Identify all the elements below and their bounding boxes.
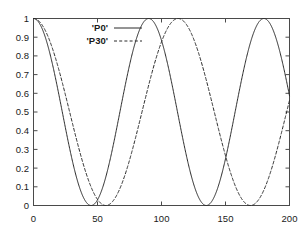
chart-container: 00.10.20.30.40.50.60.70.80.91 0501001502… [0,0,302,243]
y-tick-label: 0.3 [16,144,29,155]
y-tick-label: 0.4 [16,125,29,136]
x-tick-label: 0 [31,213,36,224]
x-tick-label: 100 [154,213,170,224]
x-tick-label: 150 [218,213,234,224]
legend-label-1: 'P0' [92,22,108,33]
y-tick-label: 0.1 [16,181,29,192]
y-tick-label: 0.9 [16,32,29,43]
chart-svg: 00.10.20.30.40.50.60.70.80.91 0501001502… [0,0,302,243]
legend-label-2: 'P30' [87,35,108,46]
y-tick-label: 0.5 [16,106,29,117]
y-axis-tick-labels: 00.10.20.30.40.50.60.70.80.91 [16,13,29,211]
y-tick-label: 0.8 [16,50,29,61]
y-tick-label: 0.2 [16,163,29,174]
y-tick-label: 0 [24,200,29,211]
y-tick-label: 0.7 [16,69,29,80]
x-tick-label: 50 [92,213,103,224]
y-tick-label: 1 [24,13,29,24]
y-tick-label: 0.6 [16,88,29,99]
x-tick-label: 200 [282,213,298,224]
